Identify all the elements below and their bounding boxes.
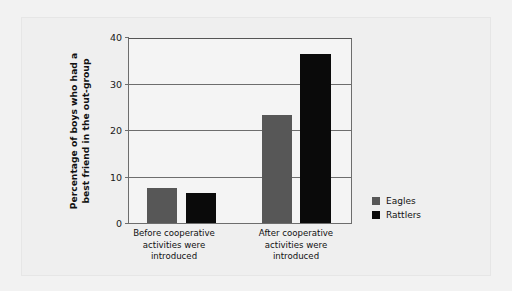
tick-mark-30 — [125, 84, 129, 85]
y-axis-title-line-2: best friend in the out-group — [80, 53, 92, 210]
y-tick-label-40: 40 — [110, 32, 122, 43]
legend-item-rattlers[interactable]: Rattlers — [372, 210, 421, 220]
legend-item-eagles[interactable]: Eagles — [372, 196, 421, 206]
category-label-after-line-3: introduced — [248, 251, 344, 263]
legend-label-eagles: Eagles — [386, 196, 416, 206]
y-tick-label-30: 30 — [110, 78, 122, 89]
chart-figure: Percentage of boys who had a best friend… — [0, 0, 512, 291]
tick-mark-40 — [125, 37, 129, 38]
category-label-before-line-2: activities were — [126, 240, 222, 252]
tick-mark-0 — [125, 223, 129, 224]
tick-mark-20 — [125, 130, 129, 131]
legend-swatch-eagles-icon — [372, 197, 380, 205]
category-label-after-line-1: After cooperative — [248, 228, 344, 240]
tick-mark-10 — [125, 177, 129, 178]
bar-before-rattlers[interactable] — [186, 193, 216, 223]
y-axis-title: Percentage of boys who had a best friend… — [60, 38, 100, 224]
bar-after-eagles[interactable] — [262, 115, 292, 223]
bar-after-rattlers[interactable] — [300, 54, 331, 223]
plot-area: 0 10 20 30 40 — [128, 38, 352, 224]
y-tick-label-10: 10 — [110, 171, 122, 182]
category-label-after: After cooperative activities were introd… — [248, 228, 344, 263]
y-tick-label-20: 20 — [110, 125, 122, 136]
category-label-before-line-3: introduced — [126, 251, 222, 263]
legend-swatch-rattlers-icon — [372, 211, 380, 219]
y-tick-label-0: 0 — [116, 218, 122, 229]
chart-legend: Eagles Rattlers — [372, 196, 421, 224]
category-label-before-line-1: Before cooperative — [126, 228, 222, 240]
bar-before-eagles[interactable] — [147, 188, 177, 223]
legend-label-rattlers: Rattlers — [386, 210, 421, 220]
category-label-before: Before cooperative activities were intro… — [126, 228, 222, 263]
y-axis-title-line-1: Percentage of boys who had a — [68, 53, 80, 210]
category-label-after-line-2: activities were — [248, 240, 344, 252]
